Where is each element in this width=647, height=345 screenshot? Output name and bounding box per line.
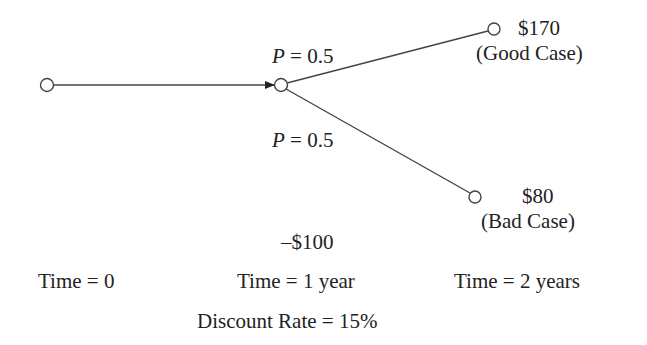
- probability-down-label: P = 0.5: [272, 130, 333, 151]
- good-case-label: (Good Case): [476, 43, 583, 64]
- time-2-label: Time = 2 years: [454, 271, 580, 292]
- probability-variable: P: [272, 44, 285, 68]
- time-0-label: Time = 0: [38, 271, 114, 292]
- bad-case-value: $80: [522, 186, 554, 207]
- probability-variable: P: [272, 128, 285, 152]
- time-1-label: Time = 1 year: [237, 271, 355, 292]
- good-case-value: $170: [518, 18, 560, 39]
- probability-value: = 0.5: [285, 128, 334, 152]
- decision-node-icon: [275, 79, 288, 92]
- probability-value: = 0.5: [285, 44, 334, 68]
- start-node-icon: [41, 79, 54, 92]
- bad-case-label: (Bad Case): [481, 211, 575, 232]
- probability-up-label: P = 0.5: [272, 46, 333, 67]
- good-case-node-icon: [488, 23, 500, 35]
- investment-amount: –$100: [281, 232, 334, 253]
- discount-rate-label: Discount Rate = 15%: [197, 311, 377, 332]
- bad-case-node-icon: [469, 191, 481, 203]
